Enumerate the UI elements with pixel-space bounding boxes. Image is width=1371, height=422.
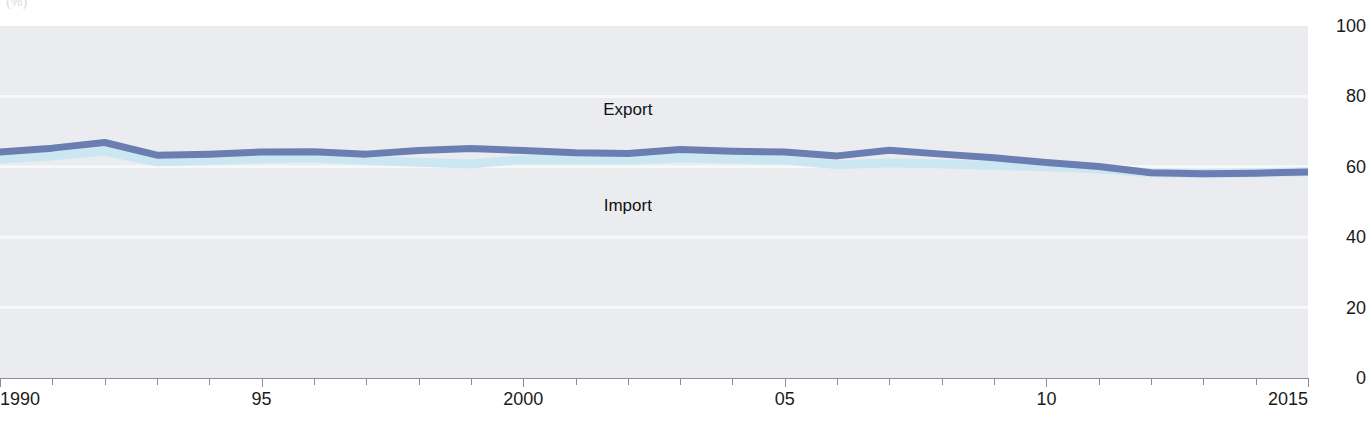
x-tick-minor — [680, 378, 681, 385]
x-tick-major — [1308, 378, 1309, 387]
x-tick-label: 95 — [252, 388, 272, 410]
x-tick-major — [1046, 378, 1047, 387]
x-tick-minor — [52, 378, 53, 385]
x-tick-minor — [732, 378, 733, 385]
y-tick-label: 40 — [1316, 228, 1366, 246]
x-tick-label: 2015 — [1268, 388, 1308, 410]
x-tick-label: 2000 — [503, 388, 543, 410]
x-tick-minor — [471, 378, 472, 385]
unit-label: (%) — [6, 0, 28, 9]
x-axis-ticks — [0, 378, 1308, 387]
x-tick-label: 05 — [775, 388, 795, 410]
plot-svg — [0, 26, 1308, 378]
x-tick-minor — [889, 378, 890, 385]
x-tick-minor — [157, 378, 158, 385]
x-tick-minor — [994, 378, 995, 385]
series-annotation-import: Import — [604, 197, 652, 215]
y-tick-label: 100 — [1316, 17, 1366, 35]
x-tick-minor — [837, 378, 838, 385]
x-tick-minor — [209, 378, 210, 385]
x-tick-minor — [314, 378, 315, 385]
y-tick-label: 60 — [1316, 158, 1366, 176]
x-tick-minor — [628, 378, 629, 385]
x-tick-major — [785, 378, 786, 387]
x-tick-minor — [105, 378, 106, 385]
x-tick-major — [523, 378, 524, 387]
x-tick-minor — [419, 378, 420, 385]
x-axis-labels: 199095200005102015 — [0, 388, 1308, 414]
gridlines — [0, 96, 1308, 307]
y-tick-label: 0 — [1316, 369, 1366, 387]
x-tick-minor — [942, 378, 943, 385]
x-tick-minor — [576, 378, 577, 385]
x-tick-label: 1990 — [0, 388, 40, 410]
y-axis-labels: 100806040200 — [1316, 0, 1371, 422]
x-tick-minor — [1203, 378, 1204, 385]
x-tick-minor — [1099, 378, 1100, 385]
x-tick-minor — [1151, 378, 1152, 385]
line-chart: (%) 199095200005102015 100806040200 Expo… — [0, 0, 1371, 422]
plot-area — [0, 26, 1308, 378]
y-tick-label: 80 — [1316, 87, 1366, 105]
x-tick-minor — [1256, 378, 1257, 385]
x-tick-label: 10 — [1036, 388, 1056, 410]
x-tick-major — [0, 378, 1, 387]
series-paths — [0, 143, 1308, 174]
x-tick-minor — [366, 378, 367, 385]
y-tick-label: 20 — [1316, 299, 1366, 317]
series-annotation-export: Export — [603, 101, 652, 119]
x-tick-major — [262, 378, 263, 387]
